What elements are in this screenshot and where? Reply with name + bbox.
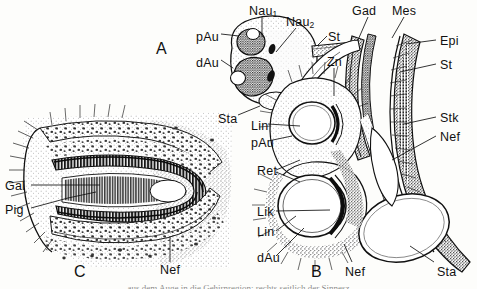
label-gal: Gal (5, 180, 25, 193)
panel-letter-a: A (156, 41, 167, 57)
label-zn: Zn (327, 56, 342, 69)
label-nef-c: Nef (160, 264, 180, 277)
label-st-a: St (328, 31, 340, 44)
label-pau-b: pAu (251, 137, 274, 150)
label-nau1: Nau1 (249, 5, 277, 18)
panel-letter-c: C (74, 264, 86, 280)
panel-letter-b: B (311, 264, 322, 280)
label-nef-b2: Nef (345, 266, 365, 279)
label-mes: Mes (392, 5, 416, 18)
figure-artwork (0, 0, 477, 289)
label-sta-b: Sta (437, 266, 456, 279)
label-ret: Ret (257, 165, 277, 178)
label-sta-a: Sta (218, 113, 237, 126)
label-dau-b: dAu (257, 252, 280, 265)
label-epi: Epi (440, 35, 459, 48)
anatomical-figure: Nau1 Nau2 pAu dAu St Sta Zn Gad Mes Epi … (0, 0, 477, 289)
figure-caption-clipped: aus dem Auge in die Gehirnregion; rechts… (0, 283, 477, 289)
label-pig: Pig (5, 204, 24, 217)
label-lin-b1: Lin (251, 120, 268, 133)
label-st-b: St (440, 59, 452, 72)
label-stk: Stk (440, 112, 459, 125)
label-lin-b2: Lin (257, 226, 274, 239)
label-nef-b1: Nef (440, 131, 460, 144)
label-lik: Lik (257, 206, 274, 219)
panel-c-artwork (9, 104, 232, 268)
label-dau-a: dAu (196, 57, 219, 70)
label-nau2: Nau2 (286, 16, 314, 29)
label-gad: Gad (352, 5, 376, 18)
label-pau-a: pAu (196, 31, 219, 44)
